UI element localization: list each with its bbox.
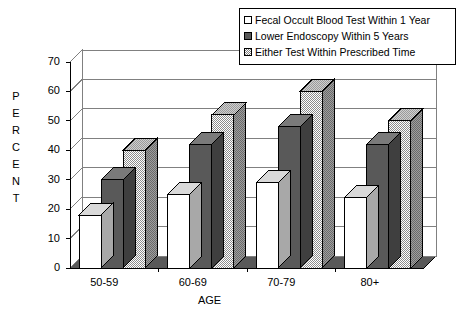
- legend-swatch-icon: [244, 48, 252, 56]
- bar-80plus-series1: [345, 185, 379, 268]
- x-axis-title-text: AGE: [198, 294, 221, 306]
- legend-swatch-icon: [244, 32, 252, 40]
- bar-chart: PERCENT 010203040506070 50-5960-6970-798: [0, 0, 463, 317]
- bar-60-69-series1: [168, 182, 202, 268]
- legend-item-2[interactable]: Lower Endoscopy Within 5 Years: [244, 28, 451, 44]
- bar-50-59-series1: [79, 203, 113, 268]
- legend-item-1[interactable]: Fecal Occult Blood Test Within 1 Year: [244, 12, 451, 28]
- x-tick-label-60-69: 60-69: [163, 277, 223, 288]
- x-tick-label-50-59: 50-59: [74, 277, 134, 288]
- legend-label: Fecal Occult Blood Test Within 1 Year: [255, 15, 430, 26]
- chart-legend: Fecal Occult Blood Test Within 1 YearLow…: [239, 8, 456, 65]
- x-tick-label-80plus: 80+: [340, 277, 400, 288]
- legend-item-3[interactable]: Either Test Within Prescribed Time: [244, 44, 451, 60]
- legend-label: Either Test Within Prescribed Time: [255, 47, 415, 58]
- x-tick-label-70-79: 70-79: [251, 277, 311, 288]
- x-axis-title: AGE: [0, 294, 463, 306]
- legend-swatch-icon: [244, 16, 252, 24]
- legend-label: Lower Endoscopy Within 5 Years: [255, 31, 409, 42]
- bar-70-79-series1: [256, 171, 290, 268]
